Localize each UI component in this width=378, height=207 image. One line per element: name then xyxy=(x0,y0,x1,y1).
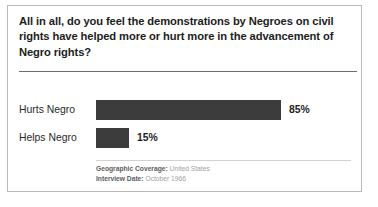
geographic-coverage-label: Geographic Coverage: xyxy=(96,165,168,172)
interview-date-line: Interview Date: October 1966 xyxy=(96,174,356,184)
chart-row: Helps Negro 15% xyxy=(8,128,363,148)
geographic-coverage-value: United States xyxy=(170,165,210,172)
page-title: All in all, do you feel the demonstratio… xyxy=(19,14,349,60)
category-label-helps-negro: Helps Negro xyxy=(19,128,95,148)
metadata-footer: Geographic Coverage: United States Inter… xyxy=(96,164,356,184)
geographic-coverage-line: Geographic Coverage: United States xyxy=(96,164,356,174)
title-divider xyxy=(19,71,357,72)
footer-divider xyxy=(96,160,351,161)
interview-date-value: October 1966 xyxy=(145,175,186,182)
bar-hurts-negro xyxy=(96,100,281,120)
value-label-helps-negro: 15% xyxy=(137,128,158,148)
bar-chart: Hurts Negro 85% Helps Negro 15% xyxy=(8,96,363,158)
chart-row: Hurts Negro 85% xyxy=(8,100,363,120)
poll-result-card: All in all, do you feel the demonstratio… xyxy=(7,5,362,192)
value-label-hurts-negro: 85% xyxy=(289,100,310,120)
bar-helps-negro xyxy=(96,128,129,148)
category-label-hurts-negro: Hurts Negro xyxy=(19,100,95,120)
interview-date-label: Interview Date: xyxy=(96,175,144,182)
